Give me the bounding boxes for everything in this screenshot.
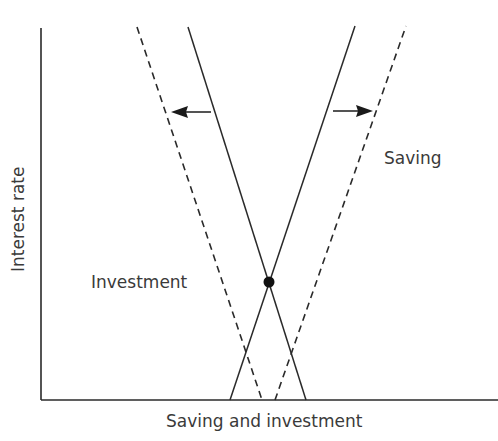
- x-axis-label: Saving and investment: [166, 411, 363, 431]
- investment-label: Investment: [91, 272, 188, 292]
- y-axis-label: Interest rate: [8, 167, 28, 272]
- saving-curve-shifted: [275, 26, 406, 400]
- shift-left-arrow-icon: [171, 106, 211, 118]
- equilibrium-point: [264, 277, 275, 288]
- investment-curve: [188, 27, 306, 400]
- saving-curve: [230, 26, 355, 400]
- saving-investment-diagram: Investment Saving Saving and investment …: [0, 0, 498, 441]
- investment-curve-shifted: [137, 27, 262, 400]
- saving-label: Saving: [384, 148, 442, 168]
- shift-right-arrow-icon: [333, 105, 373, 117]
